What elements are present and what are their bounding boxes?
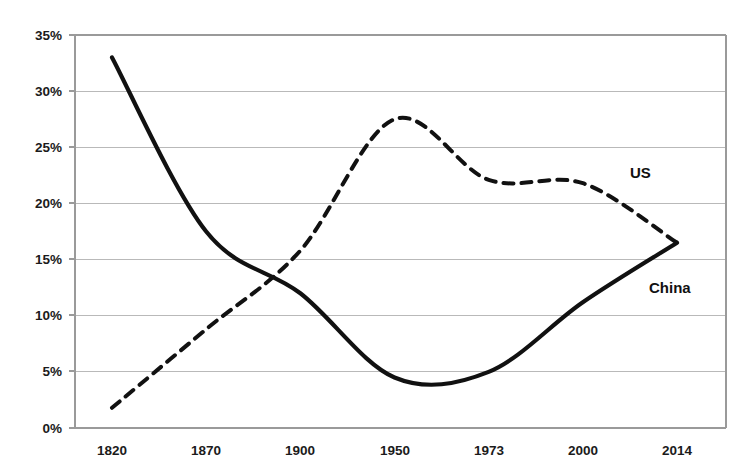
y-label-20: 20%	[35, 196, 62, 211]
chart-background	[0, 0, 749, 471]
x-label-1950: 1950	[380, 443, 410, 458]
y-label-15: 15%	[35, 252, 62, 267]
line-chart: 35% 30% 25% 20% 15% 10% 5% 0% 1820 1870 …	[0, 0, 749, 471]
x-label-2014: 2014	[662, 443, 693, 458]
x-label-2000: 2000	[568, 443, 598, 458]
y-label-10: 10%	[35, 308, 62, 323]
x-label-1870: 1870	[191, 443, 221, 458]
x-label-1900: 1900	[285, 443, 315, 458]
y-label-35: 35%	[35, 28, 62, 43]
series-label-us: US	[630, 164, 651, 181]
y-label-30: 30%	[35, 84, 62, 99]
y-label-5: 5%	[42, 364, 62, 379]
x-label-1973: 1973	[474, 443, 505, 458]
x-label-1820: 1820	[97, 443, 127, 458]
series-label-china: China	[649, 279, 691, 296]
y-label-0: 0%	[42, 421, 62, 436]
chart-container: 35% 30% 25% 20% 15% 10% 5% 0% 1820 1870 …	[0, 0, 749, 471]
y-label-25: 25%	[35, 140, 62, 155]
